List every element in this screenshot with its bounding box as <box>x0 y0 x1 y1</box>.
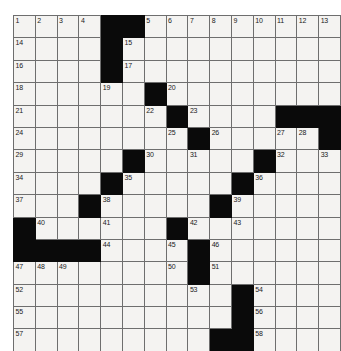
crossword-cell[interactable] <box>297 284 319 306</box>
crossword-cell[interactable] <box>57 127 79 149</box>
crossword-cell[interactable] <box>231 105 253 127</box>
crossword-cell[interactable] <box>188 307 210 329</box>
crossword-cell[interactable]: 2 <box>35 16 57 38</box>
crossword-cell[interactable] <box>253 60 275 82</box>
crossword-cell[interactable]: 15 <box>122 38 144 60</box>
crossword-cell[interactable]: 39 <box>231 195 253 217</box>
crossword-cell[interactable] <box>166 195 188 217</box>
crossword-cell[interactable]: 31 <box>188 150 210 172</box>
crossword-cell[interactable]: 46 <box>210 239 232 261</box>
crossword-cell[interactable] <box>297 195 319 217</box>
crossword-cell[interactable]: 28 <box>297 127 319 149</box>
crossword-cell[interactable] <box>122 307 144 329</box>
crossword-cell[interactable] <box>144 284 166 306</box>
crossword-cell[interactable] <box>79 38 101 60</box>
crossword-cell[interactable] <box>297 172 319 194</box>
crossword-cell[interactable] <box>297 262 319 284</box>
crossword-cell[interactable] <box>122 262 144 284</box>
crossword-cell[interactable] <box>166 150 188 172</box>
crossword-cell[interactable]: 22 <box>144 105 166 127</box>
crossword-cell[interactable] <box>101 127 123 149</box>
crossword-cell[interactable]: 52 <box>14 284 36 306</box>
crossword-cell[interactable] <box>319 60 341 82</box>
crossword-cell[interactable] <box>122 284 144 306</box>
crossword-cell[interactable]: 19 <box>101 83 123 105</box>
crossword-cell[interactable] <box>122 217 144 239</box>
crossword-cell[interactable]: 38 <box>101 195 123 217</box>
crossword-cell[interactable] <box>144 217 166 239</box>
crossword-cell[interactable] <box>57 307 79 329</box>
crossword-cell[interactable] <box>35 105 57 127</box>
crossword-cell[interactable]: 40 <box>35 217 57 239</box>
crossword-cell[interactable] <box>253 38 275 60</box>
crossword-cell[interactable] <box>319 239 341 261</box>
crossword-cell[interactable] <box>210 307 232 329</box>
crossword-cell[interactable] <box>166 38 188 60</box>
crossword-cell[interactable] <box>188 38 210 60</box>
crossword-cell[interactable] <box>275 262 297 284</box>
crossword-cell[interactable] <box>210 284 232 306</box>
crossword-cell[interactable]: 45 <box>166 239 188 261</box>
crossword-cell[interactable] <box>101 329 123 351</box>
crossword-cell[interactable] <box>57 195 79 217</box>
crossword-grid[interactable]: 1234567891011121314151617181920212223242… <box>13 15 341 351</box>
crossword-cell[interactable] <box>297 60 319 82</box>
crossword-cell[interactable]: 21 <box>14 105 36 127</box>
crossword-cell[interactable] <box>144 127 166 149</box>
crossword-cell[interactable]: 12 <box>297 16 319 38</box>
crossword-cell[interactable] <box>188 60 210 82</box>
crossword-cell[interactable] <box>231 262 253 284</box>
crossword-cell[interactable] <box>122 329 144 351</box>
crossword-cell[interactable]: 32 <box>275 150 297 172</box>
crossword-cell[interactable] <box>79 217 101 239</box>
crossword-cell[interactable] <box>79 307 101 329</box>
crossword-cell[interactable] <box>79 329 101 351</box>
crossword-cell[interactable] <box>275 83 297 105</box>
crossword-cell[interactable] <box>144 262 166 284</box>
crossword-cell[interactable] <box>166 307 188 329</box>
crossword-cell[interactable] <box>253 262 275 284</box>
crossword-cell[interactable] <box>210 60 232 82</box>
crossword-cell[interactable] <box>57 217 79 239</box>
crossword-cell[interactable]: 6 <box>166 16 188 38</box>
crossword-cell[interactable]: 27 <box>275 127 297 149</box>
crossword-cell[interactable] <box>253 127 275 149</box>
crossword-cell[interactable] <box>166 172 188 194</box>
crossword-cell[interactable] <box>231 150 253 172</box>
crossword-cell[interactable] <box>144 60 166 82</box>
crossword-cell[interactable] <box>101 105 123 127</box>
crossword-cell[interactable]: 18 <box>14 83 36 105</box>
crossword-cell[interactable]: 57 <box>14 329 36 351</box>
crossword-cell[interactable]: 10 <box>253 16 275 38</box>
crossword-cell[interactable] <box>144 329 166 351</box>
crossword-cell[interactable]: 30 <box>144 150 166 172</box>
crossword-cell[interactable]: 24 <box>14 127 36 149</box>
crossword-cell[interactable] <box>79 284 101 306</box>
crossword-cell[interactable] <box>57 83 79 105</box>
crossword-cell[interactable]: 42 <box>188 217 210 239</box>
crossword-cell[interactable] <box>122 127 144 149</box>
crossword-cell[interactable] <box>35 127 57 149</box>
crossword-cell[interactable]: 13 <box>319 16 341 38</box>
crossword-cell[interactable] <box>35 329 57 351</box>
crossword-cell[interactable]: 3 <box>57 16 79 38</box>
crossword-cell[interactable] <box>101 284 123 306</box>
crossword-cell[interactable]: 14 <box>14 38 36 60</box>
crossword-cell[interactable] <box>35 150 57 172</box>
crossword-cell[interactable]: 4 <box>79 16 101 38</box>
crossword-cell[interactable]: 44 <box>101 239 123 261</box>
crossword-cell[interactable] <box>79 127 101 149</box>
crossword-cell[interactable] <box>57 284 79 306</box>
crossword-cell[interactable]: 33 <box>319 150 341 172</box>
crossword-cell[interactable]: 29 <box>14 150 36 172</box>
crossword-cell[interactable] <box>35 83 57 105</box>
crossword-cell[interactable] <box>231 83 253 105</box>
crossword-cell[interactable]: 41 <box>101 217 123 239</box>
crossword-cell[interactable]: 50 <box>166 262 188 284</box>
crossword-cell[interactable] <box>57 38 79 60</box>
crossword-cell[interactable] <box>319 217 341 239</box>
crossword-cell[interactable] <box>297 239 319 261</box>
crossword-cell[interactable]: 37 <box>14 195 36 217</box>
crossword-cell[interactable] <box>79 83 101 105</box>
crossword-cell[interactable] <box>275 329 297 351</box>
